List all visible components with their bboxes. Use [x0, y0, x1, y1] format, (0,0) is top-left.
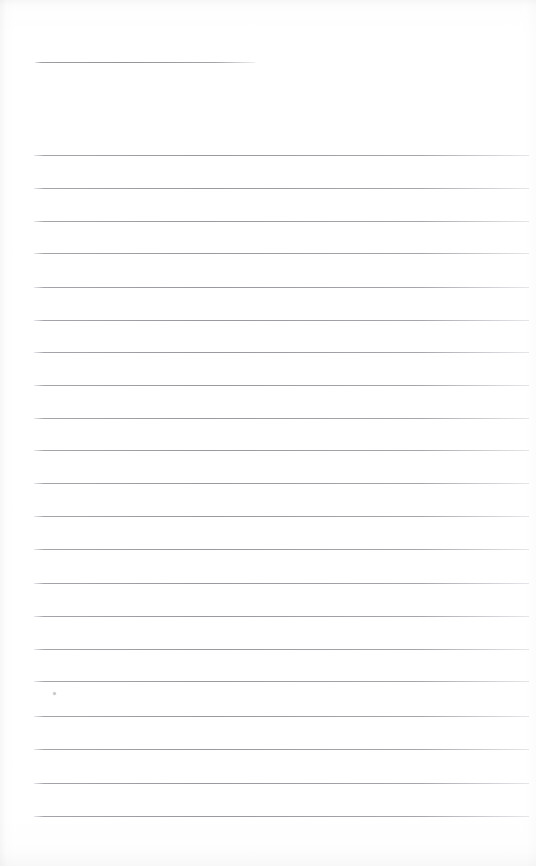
ruled-line [34, 287, 529, 288]
ruled-line [34, 749, 529, 750]
scan-gutter-right-shadow [526, 0, 536, 866]
ruled-line [34, 783, 529, 784]
scanned-page [0, 0, 536, 866]
ruled-line [34, 616, 529, 617]
scan-edge-bottom-artifact [0, 844, 536, 866]
ruled-line [34, 221, 529, 222]
ruled-line [34, 320, 529, 321]
ruled-line [34, 483, 529, 484]
ruled-line [34, 155, 529, 156]
ruled-line [34, 816, 529, 817]
scan-gutter-left-shadow [0, 0, 16, 866]
ruled-line [34, 716, 529, 717]
ruled-line [34, 516, 529, 517]
scan-edge-top-artifact [0, 0, 536, 10]
ruled-line [34, 583, 529, 584]
ruled-line [34, 385, 529, 386]
ink-speck [53, 692, 56, 695]
ruled-line [34, 549, 529, 550]
ruled-line [34, 649, 529, 650]
ruled-line [34, 681, 529, 682]
paper-surface [0, 0, 536, 866]
ruled-line [34, 253, 529, 254]
ruled-line [34, 450, 529, 451]
ruled-line [34, 352, 529, 353]
ruled-line [34, 188, 529, 189]
ruled-line [34, 418, 529, 419]
header-rule [35, 62, 255, 63]
